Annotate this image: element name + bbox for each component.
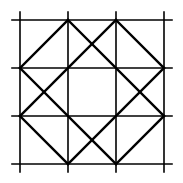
geometric-grid-diagram: [0, 0, 183, 183]
diagonal-line: [116, 116, 164, 164]
diagonal-line: [116, 20, 164, 68]
diagonal-line: [20, 20, 68, 68]
diagonal-line: [20, 116, 68, 164]
